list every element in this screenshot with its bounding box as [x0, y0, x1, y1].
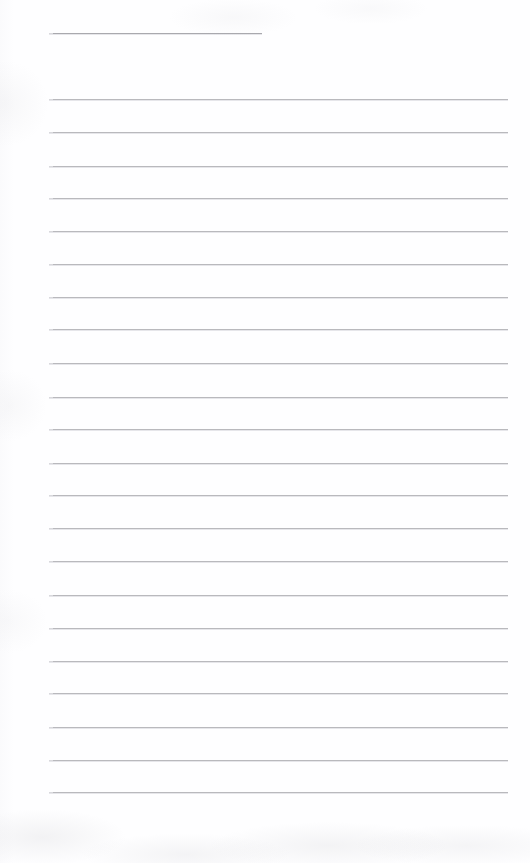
- title-rule: [49, 33, 262, 34]
- ruled-line: [49, 463, 508, 464]
- ruled-line: [49, 264, 508, 265]
- ruled-line: [49, 329, 508, 330]
- ruled-line: [49, 132, 508, 133]
- ruled-line: [49, 727, 508, 728]
- ruled-line: [49, 397, 508, 398]
- ruled-line: [49, 760, 508, 761]
- ruled-line: [49, 363, 508, 364]
- ruled-lines-layer: [0, 0, 530, 863]
- ruled-line: [49, 693, 508, 694]
- ruled-line: [49, 99, 508, 100]
- notepad-page: [0, 0, 530, 863]
- ruled-line: [49, 198, 508, 199]
- ruled-line: [49, 561, 508, 562]
- ruled-line: [49, 429, 508, 430]
- ruled-line: [49, 792, 508, 793]
- ruled-line: [49, 166, 508, 167]
- ruled-line: [49, 628, 508, 629]
- ruled-line: [49, 595, 508, 596]
- ruled-line: [49, 297, 508, 298]
- ruled-line: [49, 528, 508, 529]
- ruled-line: [49, 495, 508, 496]
- ruled-line: [49, 231, 508, 232]
- ruled-line: [49, 661, 508, 662]
